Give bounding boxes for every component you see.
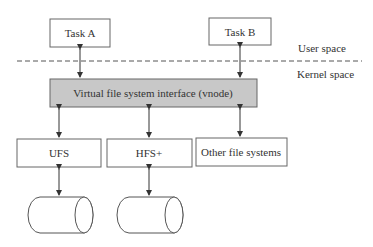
task-a-node: Task A	[50, 19, 110, 47]
disk-cylinder-icon	[28, 197, 93, 233]
kernel-space-label: Kernel space	[297, 68, 354, 80]
ufs-label: UFS	[49, 147, 69, 159]
task-b-node: Task B	[209, 18, 271, 45]
task-a-label: Task A	[65, 27, 96, 39]
ufs-node: UFS	[17, 139, 101, 167]
other-fs-label: Other file systems	[201, 146, 281, 158]
disk-cylinder-icon	[117, 197, 183, 233]
hfs-plus-node: HFS+	[107, 139, 192, 167]
vfs-label: Virtual file system interface (vnode)	[73, 87, 233, 100]
user-space-label: User space	[298, 42, 346, 54]
task-b-label: Task B	[225, 26, 256, 38]
other-fs-node: Other file systems	[196, 138, 287, 166]
vfs-architecture-diagram: Task A Task B User space Kernel space Vi…	[0, 0, 373, 247]
vfs-interface-node: Virtual file system interface (vnode)	[50, 79, 257, 107]
hfs-plus-label: HFS+	[136, 147, 162, 159]
